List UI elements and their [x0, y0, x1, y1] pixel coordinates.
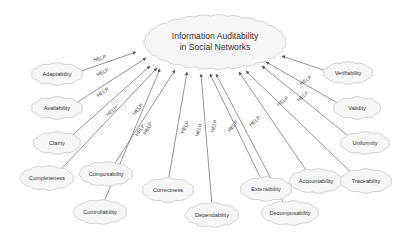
- edge-availability: [78, 58, 146, 102]
- node-controllability: Controllability: [83, 209, 117, 215]
- edge-adaptability: [82, 52, 136, 71]
- node-dependability: Dependability: [195, 212, 229, 218]
- node-traceability: Traceability: [352, 178, 380, 184]
- node-validity: Validity: [348, 105, 366, 111]
- node-accountability: Accountability: [299, 178, 334, 184]
- node-verifiability: Verifiability: [335, 70, 362, 76]
- node-clarity: Clarity: [49, 140, 65, 146]
- node-composability: Composability: [88, 171, 123, 177]
- central-concept-line1: Information Auditability: [172, 31, 258, 42]
- node-availability: Availability: [44, 105, 70, 111]
- node-uniformity: Uniformity: [352, 140, 377, 146]
- edge-dependability: [201, 74, 212, 202]
- central-concept-label: Information Auditabilityin Social Networ…: [172, 31, 258, 52]
- node-decomposability: Decomposability: [269, 210, 310, 216]
- edge-traceability: [246, 71, 351, 172]
- edge-verifiability: [282, 56, 324, 70]
- node-completeness: Completeness: [29, 175, 65, 181]
- node-correctness: Correctness: [153, 187, 183, 193]
- node-extensibility: Extensibility: [251, 186, 281, 192]
- edge-composability: [115, 70, 175, 163]
- edge-completeness: [61, 68, 157, 169]
- central-concept-line2: in Social Networks: [172, 42, 258, 53]
- node-adaptability: Adaptability: [43, 71, 72, 77]
